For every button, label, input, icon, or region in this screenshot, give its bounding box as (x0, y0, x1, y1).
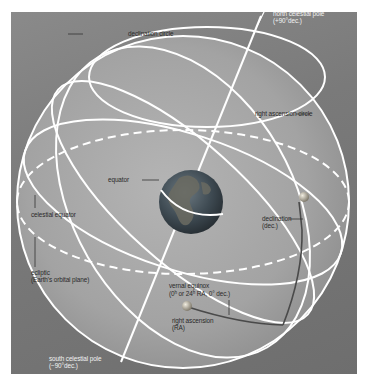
label-south-celestial-pole: south celestial pole (−90°dec.) (49, 355, 101, 370)
label-north-celestial-pole: north celestial pole (+90°dec.) (273, 12, 324, 25)
coords-part-b: or 24 (177, 290, 193, 297)
label-declination: declination (dec.) (262, 215, 291, 230)
right-ascension-text: right ascension (172, 317, 213, 324)
ecliptic-note-text: (Earth's orbital plane) (31, 276, 89, 283)
vernal-equinox-text: vernal equinox (169, 282, 230, 289)
label-ecliptic: ecliptic (Earth's orbital plane) (31, 269, 89, 284)
celestial-sphere-diagram: north celestial pole (+90°dec.) declinat… (11, 12, 357, 374)
earth-globe (159, 170, 223, 234)
vernal-equinox-coords: (0h or 24h RA, 0° dec.) (169, 289, 230, 297)
label-declination-circle: declination circle (128, 30, 173, 37)
ecliptic-text: ecliptic (31, 269, 89, 276)
south-pole-dec-text: (−90°dec.) (49, 362, 101, 369)
star-position-point (299, 192, 309, 202)
vernal-equinox-point (182, 301, 192, 311)
declination-abbr-text: (dec.) (262, 222, 291, 229)
label-vernal-equinox: vernal equinox (0h or 24h RA, 0° dec.) (169, 282, 230, 298)
right-ascension-abbr-text: (RA) (172, 324, 213, 331)
south-pole-text: south celestial pole (49, 355, 101, 362)
label-right-ascension-circle: right ascension circle (255, 110, 312, 117)
label-equator: equator (108, 176, 129, 183)
declination-text: declination (262, 215, 291, 222)
coords-part-c: RA, 0° dec.) (195, 290, 230, 297)
north-pole-dec-text: (+90°dec.) (273, 17, 324, 24)
label-right-ascension: right ascension (RA) (172, 317, 213, 332)
label-celestial-equator: celestial equator (31, 211, 76, 218)
leader-north-pole (257, 12, 267, 26)
